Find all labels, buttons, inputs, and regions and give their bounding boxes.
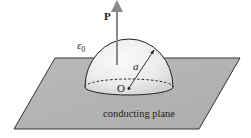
permittivity-subscript: 0 — [81, 45, 85, 54]
permittivity-label: ε0 — [77, 39, 85, 54]
origin-label: O — [117, 82, 125, 94]
conducting-plane-label: conducting plane — [103, 108, 175, 119]
hemisphere-on-plane-diagram: P ε0 a O conducting plane — [0, 0, 251, 138]
diagram-canvas: P ε0 a O conducting plane — [0, 0, 251, 138]
radius-label: a — [133, 60, 139, 72]
polarization-label: P — [104, 10, 111, 22]
origin-dot — [128, 87, 131, 90]
hemisphere-dome — [85, 39, 173, 95]
